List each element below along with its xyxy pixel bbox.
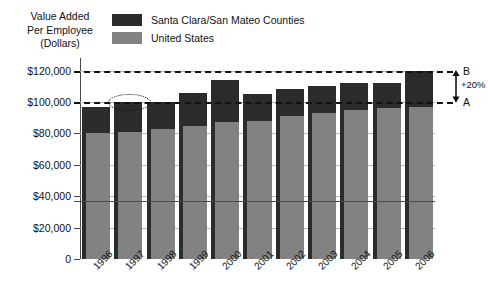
y-tick-label: $120,000 xyxy=(27,65,71,77)
legend-item-united-states: United States xyxy=(112,30,305,45)
legend-label-united-states: United States xyxy=(151,32,214,44)
upper-reference-label: B xyxy=(463,65,470,77)
y-tick-mark xyxy=(74,259,80,260)
bar-group xyxy=(147,58,175,259)
y-tick-mark xyxy=(74,196,80,197)
bar-united-states xyxy=(215,122,239,259)
bar-united-states xyxy=(377,108,401,259)
y-tick-mark xyxy=(74,165,80,166)
legend-item-santa-clara: Santa Clara/San Mateo Counties xyxy=(112,12,305,27)
bar-united-states xyxy=(312,113,336,259)
legend-swatch-united-states xyxy=(112,32,142,44)
y-axis-title-line-1: Value Added xyxy=(14,10,106,24)
legend-swatch-santa-clara xyxy=(112,14,142,26)
bar-united-states xyxy=(409,107,433,259)
x-axis-line xyxy=(74,201,435,202)
bar-united-states xyxy=(183,126,207,259)
y-tick-label: $40,000 xyxy=(33,190,71,202)
bar-united-states xyxy=(151,129,175,259)
bar-group xyxy=(179,58,207,259)
upper-reference-line xyxy=(74,71,453,73)
delta-percent-label: +20% xyxy=(461,79,486,90)
y-tick-label: $20,000 xyxy=(33,222,71,234)
bar-group xyxy=(340,58,368,259)
y-tick-mark xyxy=(74,228,80,229)
y-tick-label: $80,000 xyxy=(33,127,71,139)
y-axis-title-line-3: (Dollars) xyxy=(14,37,106,51)
chart-legend: Santa Clara/San Mateo Counties United St… xyxy=(112,12,305,48)
bar-group xyxy=(211,58,239,259)
y-tick-mark xyxy=(74,133,80,134)
value-added-bar-chart: Value Added Per Employee (Dollars) Santa… xyxy=(0,0,488,303)
bar-group xyxy=(405,58,433,259)
y-axis-title: Value Added Per Employee (Dollars) xyxy=(14,10,106,51)
plot-area xyxy=(80,58,435,259)
bar-group xyxy=(243,58,271,259)
y-tick-label: $60,000 xyxy=(33,159,71,171)
bar-united-states xyxy=(86,133,110,259)
lower-reference-label: A xyxy=(463,96,470,108)
bar-united-states xyxy=(344,110,368,259)
bar-united-states xyxy=(247,121,271,259)
legend-label-santa-clara: Santa Clara/San Mateo Counties xyxy=(151,14,305,26)
bar-united-states xyxy=(280,116,304,259)
bar-group xyxy=(114,58,142,259)
y-axis-title-line-2: Per Employee xyxy=(14,24,106,38)
y-tick-label: 0 xyxy=(65,253,71,265)
bar-united-states xyxy=(118,132,142,259)
bar-group xyxy=(308,58,336,259)
bar-group xyxy=(82,58,110,259)
bar-group xyxy=(276,58,304,259)
bar-group xyxy=(373,58,401,259)
y-tick-label: $100,000 xyxy=(27,96,71,108)
lower-reference-line xyxy=(74,102,453,104)
